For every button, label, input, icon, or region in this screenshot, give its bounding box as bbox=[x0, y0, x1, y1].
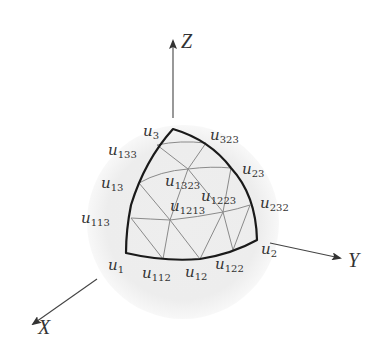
z-axis-label: Z bbox=[181, 30, 193, 52]
y-axis-label: Y bbox=[348, 249, 361, 271]
diagram-canvas: Z Y X u3 u323 u133 u23 u13 u1323 u1223 u… bbox=[0, 0, 392, 363]
y-axis bbox=[270, 243, 340, 258]
label-u323: u323 bbox=[210, 126, 239, 145]
x-axis-label: X bbox=[37, 316, 51, 338]
label-u3: u3 bbox=[143, 122, 159, 141]
diagram-svg: Z Y X u3 u323 u133 u23 u13 u1323 u1223 u… bbox=[0, 0, 392, 363]
